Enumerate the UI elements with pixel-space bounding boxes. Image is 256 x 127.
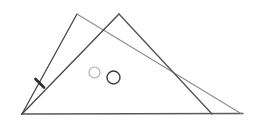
triangle-b-right-side	[119, 14, 212, 114]
triangle-b-left-side	[22, 14, 119, 114]
small-circle-left	[89, 67, 100, 78]
geometric-figure	[0, 0, 256, 127]
small-circle-right	[107, 71, 120, 84]
triangle-a-right-side	[77, 14, 241, 114]
triangle-a-left-side	[22, 14, 77, 114]
baseline	[22, 114, 244, 115]
triangles-drawing-canvas	[0, 0, 256, 127]
